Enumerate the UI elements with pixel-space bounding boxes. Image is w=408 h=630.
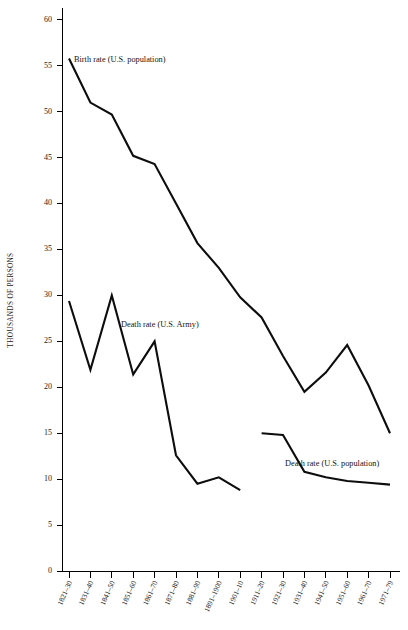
- series-line-0: [69, 58, 390, 433]
- y-tick-label: 35: [44, 244, 52, 253]
- x-tick-label: 1851–60: [119, 579, 138, 607]
- annotation-group: Birth rate (U.S. population)Death rate (…: [74, 55, 379, 468]
- y-tick-label: 20: [44, 382, 52, 391]
- y-tick-label: 15: [44, 428, 52, 437]
- x-tick-label: 1961–70: [355, 579, 374, 607]
- birth-rate-annotation: Birth rate (U.S. population): [74, 55, 166, 64]
- x-tick-label: 1941–50: [312, 579, 331, 607]
- x-tick-label: 1831–40: [77, 579, 96, 607]
- x-tick-label: 1841–50: [98, 579, 117, 607]
- y-tick-label: 0: [48, 566, 52, 575]
- x-tick-label: 1901–10: [226, 579, 245, 607]
- army-death-rate-annotation: Death rate (U.S. Army): [121, 320, 199, 329]
- y-tick-label: 40: [44, 198, 52, 207]
- y-axis-group: 051015202530354045505560 THOUSANDS OF PE…: [7, 8, 63, 575]
- y-tick-label: 25: [44, 336, 52, 345]
- x-tick-label: 1871–80: [162, 579, 181, 607]
- series-group: [69, 58, 390, 490]
- x-tick-label: 1861–70: [141, 579, 160, 607]
- x-tick-label: 1921–30: [269, 579, 288, 607]
- x-axis-group: 1821–301831–401841–501851–601861–701871–…: [55, 572, 400, 614]
- y-tick-label: 55: [44, 61, 52, 70]
- y-axis-title: THOUSANDS OF PERSONS: [7, 253, 15, 348]
- y-tick-label: 30: [44, 290, 52, 299]
- y-tick-label: 45: [44, 153, 52, 162]
- y-tick-group: 051015202530354045505560: [44, 15, 63, 575]
- x-tick-label: 1911–20: [248, 579, 267, 606]
- y-tick-label: 50: [44, 107, 52, 116]
- chart-container: 051015202530354045505560 THOUSANDS OF PE…: [0, 0, 408, 630]
- y-tick-label: 10: [44, 474, 52, 483]
- x-tick-label: 1881–90: [184, 579, 203, 607]
- y-tick-label: 5: [48, 520, 52, 529]
- x-tick-label: 1971–79: [376, 579, 395, 607]
- x-tick-label: 1891–1900: [202, 579, 224, 613]
- x-tick-label: 1951–60: [333, 579, 352, 607]
- population-death-rate-annotation: Death rate (U.S. population): [285, 459, 379, 468]
- x-tick-label: 1931–40: [291, 579, 310, 607]
- x-tick-label: 1821–30: [55, 579, 74, 607]
- line-chart: 051015202530354045505560 THOUSANDS OF PE…: [0, 0, 408, 630]
- x-tick-group: 1821–301831–401841–501851–601861–701871–…: [55, 572, 395, 614]
- y-tick-label: 60: [44, 15, 52, 24]
